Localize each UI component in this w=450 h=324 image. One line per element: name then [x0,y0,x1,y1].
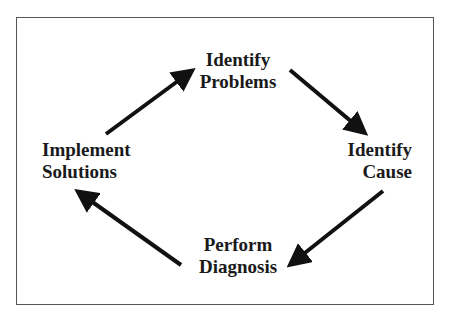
arrows-layer [0,0,450,324]
arrow-icon [84,196,181,265]
arrow-icon [290,70,359,128]
arrow-icon [106,75,186,134]
arrow-icon [296,191,383,260]
